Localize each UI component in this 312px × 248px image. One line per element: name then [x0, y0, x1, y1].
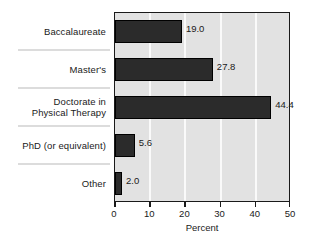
category-label: Baccalaureate: [44, 26, 110, 37]
category-label-row: Other: [0, 164, 110, 202]
x-tick-label: 40: [250, 208, 261, 219]
bar-value-label: 44.4: [275, 99, 294, 110]
plot-area: 19.027.844.45.62.0: [114, 12, 290, 202]
category-separator: [18, 163, 110, 165]
category-separator: [18, 125, 110, 127]
x-tick-label: 30: [214, 208, 225, 219]
x-tick-label: 50: [285, 208, 296, 219]
x-tick-label: 10: [144, 208, 155, 219]
bar: [115, 20, 182, 43]
bar-chart: BaccalaureateMaster'sDoctorate in Physic…: [0, 0, 312, 248]
x-tick-mark: [255, 202, 257, 207]
x-tick-mark: [114, 202, 116, 207]
bar-track: 27.8: [115, 51, 289, 89]
bar-track: 44.4: [115, 89, 289, 127]
category-label-row: PhD (or equivalent): [0, 126, 110, 164]
bar-value-label: 19.0: [186, 23, 205, 34]
x-tick-mark: [220, 202, 222, 207]
category-axis: BaccalaureateMaster'sDoctorate in Physic…: [0, 12, 112, 202]
bar-value-label: 27.8: [217, 61, 236, 72]
category-label-row: Doctorate in Physical Therapy: [0, 88, 110, 126]
bar-value-label: 2.0: [126, 175, 139, 186]
bar: [115, 134, 135, 157]
x-tick-mark: [289, 202, 291, 207]
bar: [115, 58, 213, 81]
bar-track: 19.0: [115, 13, 289, 51]
bar: [115, 172, 122, 195]
x-tick-label: 0: [111, 208, 116, 219]
bar-track: 2.0: [115, 165, 289, 203]
x-tick-label: 20: [179, 208, 190, 219]
category-label: Doctorate in Physical Therapy: [32, 96, 110, 118]
x-tick-mark: [149, 202, 151, 207]
x-axis: 01020304050: [114, 202, 290, 222]
x-tick-mark: [184, 202, 186, 207]
category-label: PhD (or equivalent): [22, 140, 110, 151]
category-label-row: Master's: [0, 50, 110, 88]
category-separator: [18, 87, 110, 89]
bar-value-label: 5.6: [139, 137, 152, 148]
x-axis-title: Percent: [114, 222, 290, 233]
bar-track: 5.6: [115, 127, 289, 165]
category-label: Other: [82, 178, 110, 189]
category-label: Master's: [70, 64, 110, 75]
category-label-row: Baccalaureate: [0, 12, 110, 50]
bar: [115, 96, 271, 119]
category-separator: [18, 49, 110, 51]
